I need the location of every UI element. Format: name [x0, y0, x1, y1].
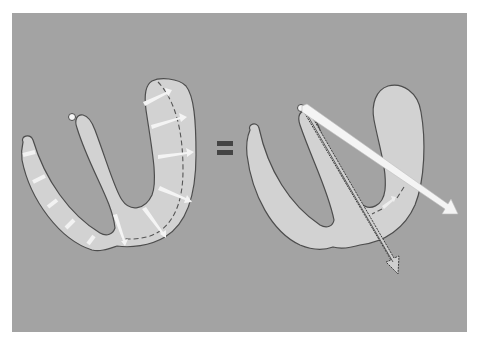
valve-tip-dot: [69, 114, 76, 121]
heart-vector-diagram: [0, 0, 480, 350]
